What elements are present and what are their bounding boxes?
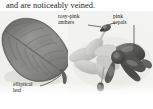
leader-anthers (88, 25, 101, 27)
leader-leaf (40, 75, 61, 86)
annotation-line-2: anthers (58, 19, 79, 25)
annotation-rosy-pink-anthers: rosy-pink anthers (58, 13, 79, 25)
annotation-elliptical-leaf: elliptical leaf (13, 81, 33, 93)
annotation-line-2: sepals (113, 19, 127, 25)
figure-page: and are noticeably veined. (0, 0, 153, 109)
annotation-line-2: leaf (13, 87, 33, 93)
annotation-pink-sepals: pink sepals (113, 13, 127, 25)
